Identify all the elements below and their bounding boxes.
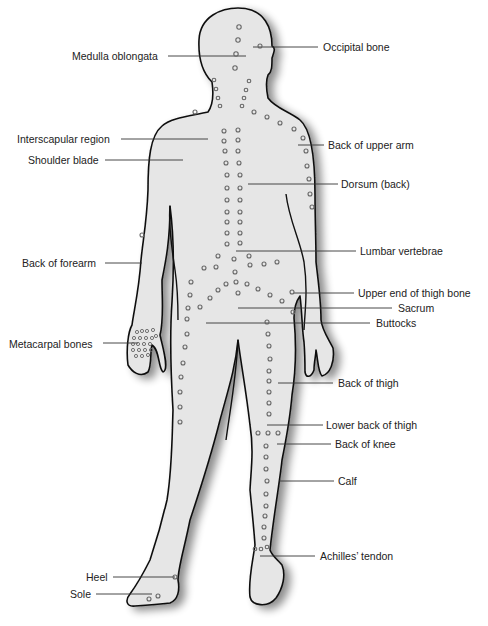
label-shoulder-blade: Shoulder blade <box>28 154 99 166</box>
body-diagram: Medulla oblongata Occipital bone Intersc… <box>0 0 488 626</box>
label-calf: Calf <box>338 475 357 487</box>
label-back-of-knee: Back of knee <box>335 438 396 450</box>
label-heel: Heel <box>86 571 108 583</box>
label-metacarpal-bones: Metacarpal bones <box>9 338 92 350</box>
label-medulla-oblongata: Medulla oblongata <box>72 50 158 62</box>
label-achilles-tendon: Achilles’ tendon <box>320 550 393 562</box>
label-dorsum-back: Dorsum (back) <box>341 178 410 190</box>
label-sacrum: Sacrum <box>398 302 434 314</box>
label-back-of-thigh: Back of thigh <box>338 377 399 389</box>
label-back-of-upper-arm: Back of upper arm <box>328 139 414 151</box>
label-interscapular-region: Interscapular region <box>17 133 110 145</box>
label-buttocks: Buttocks <box>376 317 416 329</box>
label-upper-end-of-thigh-bone: Upper end of thigh bone <box>358 287 471 299</box>
label-lower-back-of-thigh: Lower back of thigh <box>326 419 417 431</box>
label-occipital-bone: Occipital bone <box>323 41 390 53</box>
label-back-of-forearm: Back of forearm <box>22 257 96 269</box>
label-sole: Sole <box>70 588 91 600</box>
label-lumbar-vertebrae: Lumbar vertebrae <box>360 245 443 257</box>
body-outline <box>127 8 333 606</box>
